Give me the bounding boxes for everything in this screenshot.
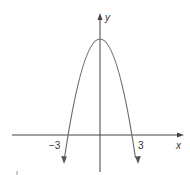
y-axis-arrow-icon xyxy=(98,13,103,20)
parabola-chart: y x −3 3 xyxy=(0,0,190,175)
right-arrow-icon xyxy=(135,156,141,164)
tick-label-neg3: −3 xyxy=(49,140,61,151)
left-arrow-icon xyxy=(61,156,67,164)
tick-label-3: 3 xyxy=(138,140,144,151)
x-axis-label: x xyxy=(175,140,182,151)
x-axis-arrow-icon xyxy=(177,133,184,138)
y-axis-label: y xyxy=(104,12,111,23)
